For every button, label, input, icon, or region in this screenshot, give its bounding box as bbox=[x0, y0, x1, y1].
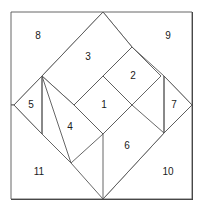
piece-label-3: 3 bbox=[85, 51, 91, 62]
piece-label-6: 6 bbox=[124, 140, 130, 151]
piece-label-9: 9 bbox=[165, 30, 171, 41]
piece-label-10: 10 bbox=[162, 166, 174, 177]
piece-label-4: 4 bbox=[67, 121, 73, 132]
piece-label-8: 8 bbox=[35, 30, 41, 41]
piece-label-5: 5 bbox=[28, 99, 34, 110]
dissection-svg: 1 2 3 4 5 6 7 8 9 10 11 bbox=[0, 0, 204, 211]
piece-label-7: 7 bbox=[171, 99, 177, 110]
piece-label-11: 11 bbox=[34, 166, 45, 177]
dissection-figure: 1 2 3 4 5 6 7 8 9 10 11 bbox=[0, 0, 204, 211]
piece-label-2: 2 bbox=[130, 70, 136, 81]
piece-label-1: 1 bbox=[101, 99, 107, 110]
